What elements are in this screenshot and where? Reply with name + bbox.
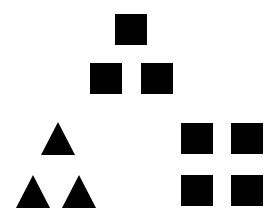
- grid-square-top-left: [181, 123, 213, 154]
- shape-group-bottom-right-square-grid: [0, 0, 275, 218]
- square-row2-left: [90, 63, 122, 94]
- grid-square-bottom-right: [231, 175, 263, 206]
- grid-square-top-right: [231, 123, 263, 154]
- triangle-row2-right: [62, 175, 96, 208]
- shape-group-bottom-left-triangle-pyramid: [0, 0, 275, 218]
- grid-square-bottom-left: [181, 175, 213, 206]
- triangle-row2-left: [16, 175, 50, 208]
- square-top-apex: [115, 14, 147, 45]
- square-row2-right: [141, 63, 173, 94]
- triangle-top-apex: [41, 122, 75, 155]
- shape-group-top-square-pyramid: [0, 0, 275, 218]
- figure-canvas: [0, 0, 275, 218]
